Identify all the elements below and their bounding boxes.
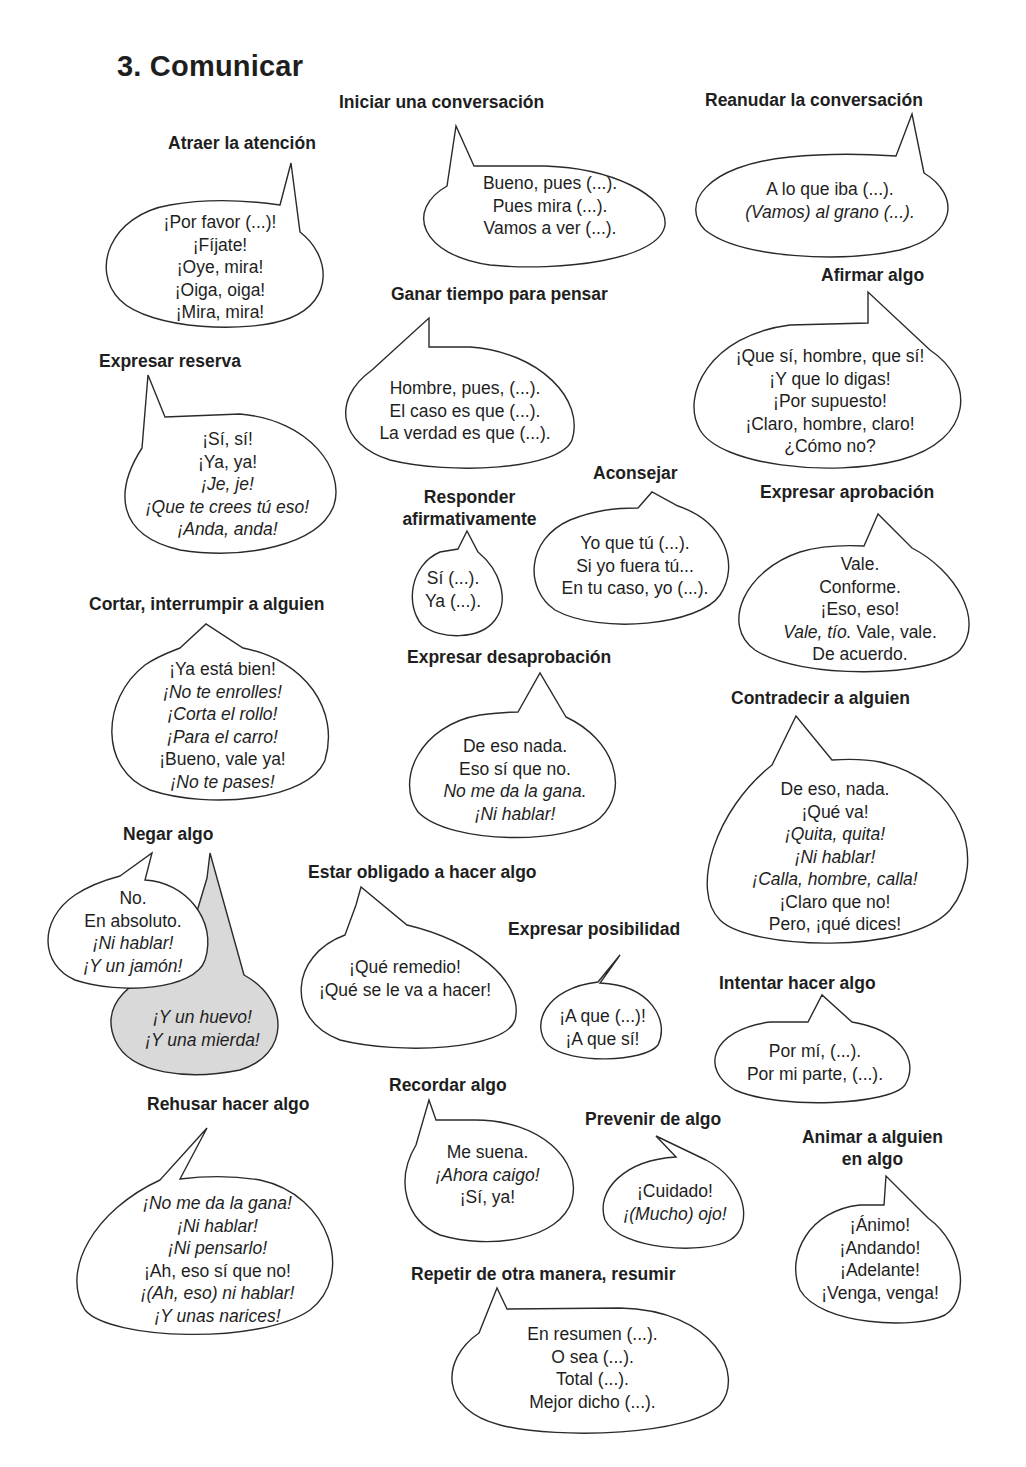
phrase: ¡Sí, ya!: [410, 1186, 565, 1209]
phrase: Por mi parte, (...).: [720, 1063, 910, 1086]
phrase-normal-part: Vale, vale.: [852, 622, 937, 642]
heading-estar-obligado: Estar obligado a hacer algo: [308, 861, 537, 883]
phrase: ¡Qué remedio!: [295, 956, 515, 979]
bubble-text-reanudar: A lo que iba (...). (Vamos) al grano (..…: [725, 178, 935, 223]
heading-expresar-reserva: Expresar reserva: [99, 350, 241, 372]
phrase: Hombre, pues, (...).: [355, 377, 575, 400]
phrase: Por mí, (...).: [720, 1040, 910, 1063]
phrase: ¡(Ah, eso) ni hablar!: [110, 1282, 325, 1305]
phrase: ¡Adelante!: [800, 1259, 960, 1282]
heading-atraer-la-atencion: Atraer la atención: [168, 132, 316, 154]
phrase: ¡Ni hablar!: [58, 932, 208, 955]
bubble-text-atraer: ¡Por favor (...)! ¡Fíjate! ¡Oye, mira! ¡…: [135, 211, 305, 324]
bubble-text-rehusar: ¡No me da la gana! ¡Ni hablar! ¡Ni pensa…: [110, 1192, 325, 1327]
phrase: Me suena.: [410, 1141, 565, 1164]
bubble-text-responder: Sí (...). Ya (...).: [408, 567, 498, 612]
bubble-text-iniciar: Bueno, pues (...). Pues mira (...). Vamo…: [460, 172, 640, 240]
heading-recordar-algo: Recordar algo: [389, 1074, 507, 1096]
heading-expresar-desaprobacion: Expresar desaprobación: [407, 646, 611, 668]
phrase: Conforme.: [755, 576, 965, 599]
phrase-italic-part: Vale, tío.: [783, 622, 851, 642]
phrase: ¡Y unas narices!: [110, 1305, 325, 1328]
heading-reanudar-conversacion: Reanudar la conversación: [705, 89, 923, 111]
heading-expresar-aprobacion: Expresar aprobación: [760, 481, 934, 503]
worksheet-page: 3. Comunicar Atraer la atención ¡Por fav…: [0, 0, 1026, 1467]
phrase: ¡Ya está bien!: [130, 658, 315, 681]
bubble-text-contradecir: De eso, nada. ¡Qué va! ¡Quita, quita! ¡N…: [725, 778, 945, 936]
phrase: ¡Je, je!: [120, 473, 335, 496]
phrase: ¡Ni pensarlo!: [110, 1237, 325, 1260]
bubble-text-repetir: En resumen (...). O sea (...). Total (..…: [495, 1323, 690, 1413]
phrase: ¡No te pases!: [130, 771, 315, 794]
phrase: ¡Y un jamón!: [58, 955, 208, 978]
heading-aconsejar: Aconsejar: [593, 462, 678, 484]
heading-iniciar-conversacion: Iniciar una conversación: [339, 91, 544, 113]
phrase: En absoluto.: [58, 910, 208, 933]
phrase: No me da la gana.: [415, 780, 615, 803]
phrase: Yo que tú (...).: [535, 532, 735, 555]
heading-animar-a-alguien: Animar a alguien en algo: [790, 1126, 955, 1170]
phrase: ¡Oye, mira!: [135, 256, 305, 279]
heading-intentar-hacer-algo: Intentar hacer algo: [719, 972, 876, 994]
phrase: ¡Claro que no!: [725, 891, 945, 914]
phrase: De acuerdo.: [755, 643, 965, 666]
heading-afirmar-algo: Afirmar algo: [821, 264, 924, 286]
phrase: ¡Que sí, hombre, que sí!: [705, 345, 955, 368]
phrase: ¡Ni hablar!: [725, 846, 945, 869]
phrase: ¡Que te crees tú eso!: [120, 496, 335, 519]
phrase: ¡Cuidado!: [600, 1180, 750, 1203]
heading-responder-afirmativamente: Responder afirmativamente: [387, 486, 552, 530]
heading-line: en algo: [790, 1148, 955, 1170]
phrase: ¡Oiga, oiga!: [135, 279, 305, 302]
phrase: ¡Sí, sí!: [120, 428, 335, 451]
phrase: (Vamos) al grano (...).: [725, 201, 935, 224]
bubble-text-desaprobacion: De eso nada. Eso sí que no. No me da la …: [415, 735, 615, 825]
phrase: ¡Ni hablar!: [415, 803, 615, 826]
heading-line: afirmativamente: [387, 508, 552, 530]
phrase: ¡Por supuesto!: [705, 390, 955, 413]
phrase: Pues mira (...).: [460, 195, 640, 218]
bubble-text-intentar: Por mí, (...). Por mi parte, (...).: [720, 1040, 910, 1085]
phrase: ¡Corta el rollo!: [130, 703, 315, 726]
heading-repetir-resumir: Repetir de otra manera, resumir: [411, 1263, 676, 1285]
phrase: ¿Cómo no?: [705, 435, 955, 458]
phrase: ¡Ah, eso sí que no!: [110, 1260, 325, 1283]
phrase: ¡Andando!: [800, 1237, 960, 1260]
phrase: Total (...).: [495, 1368, 690, 1391]
phrase: ¡(Mucho) ojo!: [600, 1203, 750, 1226]
phrase: El caso es que (...).: [355, 400, 575, 423]
phrase: Eso sí que no.: [415, 758, 615, 781]
phrase: ¡Qué va!: [725, 801, 945, 824]
phrase: ¡Ni hablar!: [110, 1215, 325, 1238]
phrase: ¡Ánimo!: [800, 1214, 960, 1237]
phrase: Ya (...).: [408, 590, 498, 613]
phrase: ¡Quita, quita!: [725, 823, 945, 846]
phrase: De eso nada.: [415, 735, 615, 758]
phrase: Mejor dicho (...).: [495, 1391, 690, 1414]
heading-negar-algo: Negar algo: [123, 823, 213, 845]
phrase: ¡Mira, mira!: [135, 301, 305, 324]
bubble-text-aconsejar: Yo que tú (...). Si yo fuera tú... En tu…: [535, 532, 735, 600]
bubble-text-prevenir: ¡Cuidado! ¡(Mucho) ojo!: [600, 1180, 750, 1225]
bubble-text-negar-vulgar: ¡Y un huevo! ¡Y una mierda!: [125, 1006, 280, 1051]
heading-line: Animar a alguien: [790, 1126, 955, 1148]
phrase: Si yo fuera tú...: [535, 555, 735, 578]
phrase: ¡Bueno, vale ya!: [130, 748, 315, 771]
heading-ganar-tiempo: Ganar tiempo para pensar: [391, 283, 608, 305]
phrase: Vamos a ver (...).: [460, 217, 640, 240]
heading-cortar-interrumpir: Cortar, interrumpir a alguien: [89, 593, 324, 615]
phrase: Pero, ¡qué dices!: [725, 913, 945, 936]
bubble-text-recordar: Me suena. ¡Ahora caigo! ¡Sí, ya!: [410, 1141, 565, 1209]
phrase: A lo que iba (...).: [725, 178, 935, 201]
phrase: O sea (...).: [495, 1346, 690, 1369]
phrase: ¡Calla, hombre, calla!: [725, 868, 945, 891]
phrase: ¡Y un huevo!: [125, 1006, 280, 1029]
phrase: ¡Qué se le va a hacer!: [295, 979, 515, 1002]
phrase: Vale.: [755, 553, 965, 576]
phrase: ¡Ahora caigo!: [410, 1164, 565, 1187]
bubble-text-negar: No. En absoluto. ¡Ni hablar! ¡Y un jamón…: [58, 887, 208, 977]
phrase: ¡A que sí!: [540, 1028, 665, 1051]
phrase: ¡Por favor (...)!: [135, 211, 305, 234]
phrase: Bueno, pues (...).: [460, 172, 640, 195]
phrase: La verdad es que (...).: [355, 422, 575, 445]
